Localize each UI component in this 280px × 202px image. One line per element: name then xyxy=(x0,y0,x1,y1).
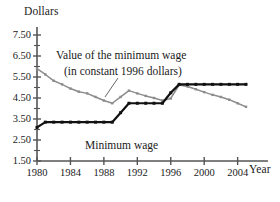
annotation-leader-line xyxy=(105,78,118,97)
y-tick-label: 1.50 xyxy=(3,155,31,166)
x-tick-label: 2000 xyxy=(187,167,221,178)
annotation-nominal-wage: Minimum wage xyxy=(85,139,158,151)
y-tick-label: 4.50 xyxy=(3,92,31,103)
chart-figure: Dollars Year 1.502.503.504.505.506.507.5… xyxy=(0,0,280,202)
x-tick-label: 2004 xyxy=(221,167,255,178)
y-axis-title: Dollars xyxy=(24,5,59,17)
x-tick-label: 1984 xyxy=(53,167,87,178)
annotation-real-wage-line1: Value of the minimum wage xyxy=(56,49,186,61)
x-tick-label: 1980 xyxy=(20,167,54,178)
y-tick-label: 5.50 xyxy=(3,71,31,82)
x-tick-label: 1988 xyxy=(87,167,121,178)
y-tick-label: 2.50 xyxy=(3,134,31,145)
y-tick-label: 7.50 xyxy=(3,29,31,40)
y-tick-label: 3.50 xyxy=(3,113,31,124)
x-tick-label: 1992 xyxy=(120,167,154,178)
y-tick-label: 6.50 xyxy=(3,50,31,61)
x-tick-label: 1996 xyxy=(154,167,188,178)
annotation-real-wage-line2: (in constant 1996 dollars) xyxy=(64,65,182,77)
